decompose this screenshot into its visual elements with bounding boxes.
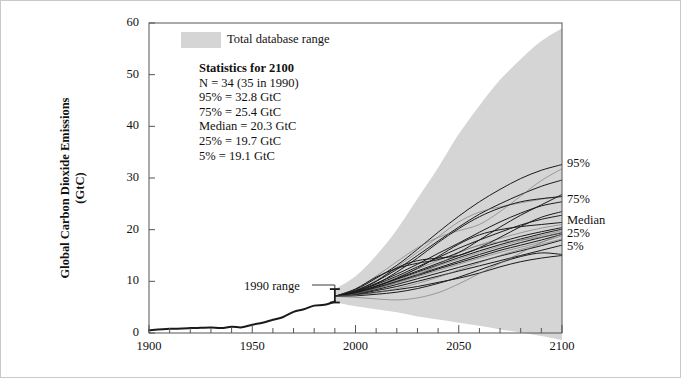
- y-tick-label-20: 20: [1, 222, 139, 237]
- total-database-range-swatch: [181, 32, 221, 48]
- y-tick-label-10: 10: [1, 273, 139, 288]
- statistics-line-5: 5% = 19.1 GtC: [199, 149, 299, 164]
- x-tick-label-1950: 1950: [230, 339, 274, 354]
- right-label-p95: 95%: [567, 156, 590, 171]
- x-tick-label-2000: 2000: [334, 339, 378, 354]
- x-tick-label-2050: 2050: [437, 339, 481, 354]
- y-tick-label-60: 60: [1, 15, 139, 30]
- figure-container: Global Carbon Dioxide Emissions (GtC) To…: [0, 0, 681, 378]
- statistics-line-0: N = 34 (35 in 1990): [199, 76, 299, 91]
- y-tick-label-30: 30: [1, 170, 139, 185]
- statistics-line-4: 25% = 19.7 GtC: [199, 134, 299, 149]
- x-tick-label-1900: 1900: [127, 339, 171, 354]
- statistics-box: Statistics for 2100 N = 34 (35 in 1990) …: [199, 61, 299, 163]
- statistics-line-1: 95% = 32.8 GtC: [199, 90, 299, 105]
- x-tick-label-2100: 2100: [540, 339, 584, 354]
- legend-label: Total database range: [227, 32, 330, 47]
- y-tick-label-40: 40: [1, 118, 139, 133]
- statistics-line-2: 75% = 25.4 GtC: [199, 105, 299, 120]
- statistics-heading: Statistics for 2100: [199, 61, 299, 76]
- chart-plot-area: [1, 1, 681, 378]
- statistics-line-3: Median = 20.3 GtC: [199, 119, 299, 134]
- annotation-1990-range: 1990 range: [244, 279, 300, 294]
- y-tick-label-50: 50: [1, 67, 139, 82]
- right-label-p75: 75%: [567, 192, 590, 207]
- historical-emissions-line: [149, 301, 335, 330]
- y-tick-label-0: 0: [1, 325, 139, 340]
- right-label-p5: 5%: [567, 239, 584, 254]
